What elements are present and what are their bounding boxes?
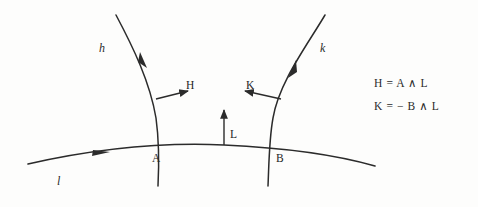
point-label-B: B xyxy=(276,152,284,164)
equation-H: H = A ∧ L xyxy=(374,78,478,90)
equation-K: K = − B ∧ L xyxy=(374,101,478,113)
curve-label-h: h xyxy=(99,41,105,56)
curve-label-k: k xyxy=(320,41,325,56)
vector-label-L: L xyxy=(230,128,237,140)
vector-K-arrow xyxy=(245,91,281,99)
geometry-figure: h k l A B H K L H = A ∧ L K = − B ∧ L xyxy=(0,0,478,207)
vector-label-K: K xyxy=(246,79,254,91)
equation-block: H = A ∧ L K = − B ∧ L xyxy=(374,78,478,123)
curve-h-direction-arrow xyxy=(138,52,147,68)
vector-label-H: H xyxy=(186,79,194,91)
line-l xyxy=(28,144,375,166)
vector-H-arrow xyxy=(156,91,188,99)
point-label-A: A xyxy=(152,152,160,164)
curve-k-direction-arrow xyxy=(288,60,297,78)
curve-label-l: l xyxy=(57,174,60,189)
